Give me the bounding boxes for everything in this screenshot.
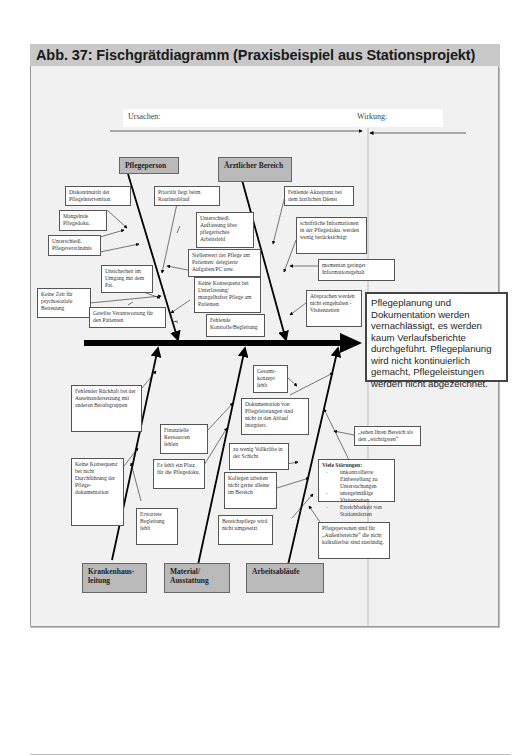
category-arbeitsablaeufe: Arbeitsabläufe bbox=[246, 563, 324, 593]
cause-box: Unterschiedl. Auffassung über pflegerisc… bbox=[196, 212, 254, 248]
cause-box: Erwartete Begleitung fehlt bbox=[136, 508, 178, 545]
stoerungen-item: unregelmäßige Visitenzeiten bbox=[340, 490, 391, 504]
stoerungen-item: Erreichbarkeit von Stationsärzten bbox=[340, 504, 391, 518]
cause-box: Pflegepersonen sind für „Außenbereiche“ … bbox=[318, 522, 390, 559]
category-material: Material/ Ausstattung bbox=[164, 563, 230, 593]
cause-box: zu wenig Vollkräfte in der Schicht bbox=[229, 443, 289, 470]
category-pflegeperson: Pflegeperson bbox=[119, 157, 179, 174]
cause-box: Keine Konsequenz bei Unterlassung/ mange… bbox=[194, 277, 261, 313]
category-material-label: Material/ Ausstattung bbox=[170, 567, 209, 585]
cause-box: Bereichspflege wird nicht umgesetzt bbox=[218, 515, 273, 545]
cause-box: Geteilte Verantwortung für den Patienten bbox=[89, 307, 166, 328]
category-krankenhausleitung: Krankenhaus-leitung bbox=[82, 563, 147, 593]
cause-box: Mangelnde Pflegedoku. bbox=[59, 210, 107, 231]
category-pflegeperson-label: Pflegeperson bbox=[125, 161, 166, 170]
cause-box: schriftliche Informationen in der Pflege… bbox=[296, 217, 367, 254]
cause-box: Fehlende Akzeptanz bei dem ärztlichen Di… bbox=[284, 186, 354, 206]
cause-box: Absprachen werden nicht eingehalten -Vis… bbox=[306, 290, 362, 327]
cause-box: Diskontinuität der Pflegeintervention bbox=[65, 186, 131, 206]
category-krankenhausleitung-label: Krankenhaus-leitung bbox=[88, 567, 134, 585]
cause-box: Unterschiedl. Pflegeverständnis bbox=[48, 235, 101, 256]
category-aerztlicher-bereich: Ärztlicher Bereich bbox=[218, 157, 292, 182]
category-aerztlicher-bereich-label: Ärztlicher Bereich bbox=[224, 161, 283, 170]
cause-box: Priorität liegt beim Routineablauf bbox=[154, 186, 220, 206]
stoerungen-title: Viele Störungen: bbox=[322, 462, 391, 469]
cause-box: Keine Konsequenz bei nicht Durchführung … bbox=[71, 458, 124, 526]
cause-box: Finanzielle Ressourcen fehlen bbox=[160, 424, 208, 454]
cause-box: Es fehlt ein Platz für die Pflegedoku. bbox=[153, 459, 205, 489]
cause-box: „sehen Ihren Bereich als den „wichtigste… bbox=[354, 426, 421, 446]
effect-box: Pflegeplanung und Dokumentation werden v… bbox=[365, 292, 508, 382]
stoerungen-item: unkontrollierte Einbestellung zu Untersu… bbox=[340, 469, 391, 490]
cause-box: Keine Zeit für psychosoziale Betreuung bbox=[37, 288, 91, 318]
category-arbeitsablaeufe-label: Arbeitsabläufe bbox=[252, 567, 300, 576]
cause-box: Gesamt-konzept fehlt bbox=[253, 365, 288, 393]
cause-box: Fehlende Kontrolle/Begleitung bbox=[206, 314, 265, 337]
stoerungen-list: unkontrollierte Einbestellung zu Untersu… bbox=[322, 469, 391, 518]
cause-box: Fehlender Rückhalt bei der Auseinanderse… bbox=[71, 385, 142, 432]
stoerungen-box: Viele Störungen: unkontrollierte Einbest… bbox=[318, 459, 395, 502]
cause-box: Stellenwert der Pflege am Patienten/ del… bbox=[188, 249, 261, 277]
cause-box: Unsicherheit im Umgang mit dem Pat. bbox=[101, 265, 153, 293]
effect-text: Pflegeplanung und Dokumentation werden v… bbox=[371, 297, 492, 389]
cause-box: Dokumentation von Pflegeleistungen sind … bbox=[241, 398, 309, 435]
cause-box: momentan geringer Informationsgehalt bbox=[318, 259, 395, 281]
cause-box: Kollegen arbeiten nicht gerne alleine im… bbox=[224, 472, 277, 509]
